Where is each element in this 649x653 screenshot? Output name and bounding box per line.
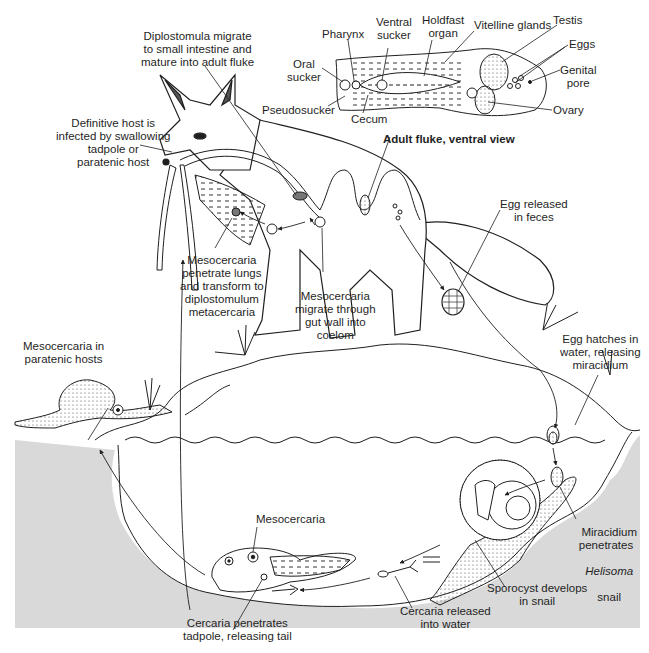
label-pseudosucker: Pseudosucker bbox=[262, 104, 335, 117]
label-holdfast-organ: Holdfast organ bbox=[422, 14, 464, 40]
label-miracidium-line1: Miracidium penetrates bbox=[579, 526, 637, 551]
label-ventral-sucker: Ventral sucker bbox=[376, 16, 412, 42]
label-cecum: Cecum bbox=[351, 113, 387, 126]
label-vitelline-glands: Vitelline glands bbox=[474, 19, 551, 32]
label-cercaria-penetrates: Cercaria penetrates tadpole, releasing t… bbox=[183, 617, 292, 643]
label-oral-sucker: Oral sucker bbox=[287, 58, 321, 84]
label-definitive-host: Definitive host is infected by swallowin… bbox=[56, 117, 170, 169]
label-mesocercaria-gut: Mesocercaria migrate through gut wall in… bbox=[295, 290, 376, 342]
label-sporocyst: Sporocyst develops in snail bbox=[487, 582, 587, 608]
label-ovary: Ovary bbox=[553, 104, 584, 117]
label-mesocercaria-lungs: Mesocercaria penetrate lungs and transfo… bbox=[180, 254, 264, 319]
label-pharynx: Pharynx bbox=[322, 28, 364, 41]
label-adult-fluke-caption: Adult fluke, ventral view bbox=[383, 133, 515, 146]
label-cercaria-released: Cercaria released into water bbox=[400, 605, 491, 631]
label-miracidium-line3: snail bbox=[597, 591, 621, 603]
label-egg-hatches: Egg hatches in water, releasing miracidi… bbox=[560, 333, 641, 372]
paratenic-snake bbox=[15, 380, 172, 428]
label-diplostomula-migrate: Diplostomula migrate to small intestine … bbox=[141, 30, 254, 69]
label-mesocercaria: Mesocercaria bbox=[256, 513, 325, 526]
label-eggs: Eggs bbox=[569, 38, 595, 51]
ground-bank bbox=[95, 344, 640, 440]
label-genital-pore: Genital pore bbox=[560, 64, 596, 90]
label-miracidium-genus: Helisoma bbox=[585, 565, 633, 577]
label-egg-released: Egg released in feces bbox=[500, 198, 568, 224]
egg-in-feces bbox=[442, 289, 464, 315]
label-testis: Testis bbox=[553, 14, 582, 27]
label-paratenic-hosts: Mesocercaria in paratenic hosts bbox=[23, 340, 104, 366]
